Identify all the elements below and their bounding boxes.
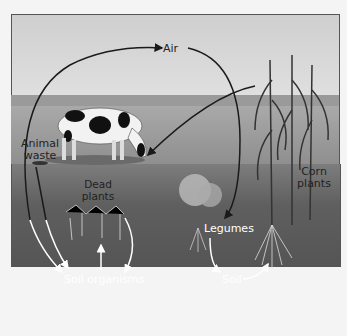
- arrow-waste: [36, 167, 46, 220]
- label-corn-plants: Corn plants: [296, 166, 332, 190]
- label-dead: Dead: [84, 178, 112, 190]
- corn-plants-icon: [255, 55, 328, 230]
- label-soil-organisms: Soil organisms: [64, 274, 144, 286]
- label-corn-plants-2: plants: [297, 177, 331, 190]
- label-dead-plants: Dead plants: [78, 178, 118, 202]
- label-waste: waste: [24, 149, 57, 162]
- dead-plants-icon: [66, 205, 124, 240]
- corn-roots-icon: [255, 225, 292, 268]
- label-air: Air: [163, 43, 178, 55]
- label-soil: Soil: [222, 274, 242, 286]
- legumes-icon: [179, 174, 222, 252]
- label-animal-waste: Animal waste: [20, 138, 60, 162]
- label-legumes: Legumes: [204, 223, 254, 235]
- label-plants: plants: [82, 190, 114, 202]
